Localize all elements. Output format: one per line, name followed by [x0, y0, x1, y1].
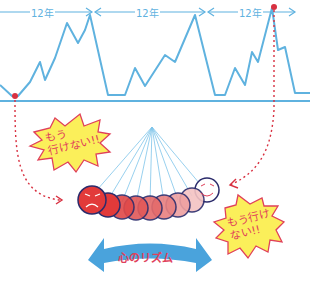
period-label-2: 12年: [135, 5, 160, 20]
low-point-marker: [12, 93, 18, 99]
period-label-3: 12年: [238, 5, 263, 20]
pendulum-balls: [78, 178, 219, 220]
dotted-connector-right: [230, 10, 274, 185]
period-label-1: 12年: [30, 5, 55, 20]
rhythm-label: 心のリズム: [118, 249, 173, 265]
high-point-marker: [271, 4, 277, 10]
rhythm-line: [0, 8, 310, 96]
